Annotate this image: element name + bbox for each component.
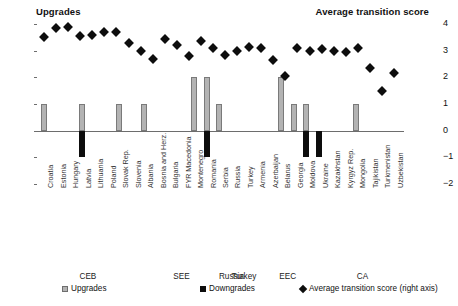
upgrade-bar — [116, 104, 122, 131]
upgrade-bar — [291, 104, 297, 131]
y-tick-label-right-4: 4 — [443, 19, 458, 28]
group-label-ca: CA — [357, 272, 368, 281]
upgrade-bar — [303, 104, 309, 131]
chart-title-right: Average transition score — [316, 6, 429, 17]
upgrade-bar — [353, 104, 359, 131]
x-axis-label: Kazakhstan — [334, 150, 341, 188]
legend-label: Average transition score (right axis) — [309, 284, 438, 293]
downgrade-bar — [79, 131, 85, 158]
x-axis-label: Slovak Rep. — [122, 149, 129, 188]
y-tick-mark-2 — [34, 77, 37, 78]
y-tick-mark-0 — [34, 131, 37, 132]
x-axis-label: Turkmenistan — [384, 145, 391, 188]
x-axis-label: Russia — [234, 166, 241, 188]
y-tick-mark-1 — [34, 104, 37, 105]
x-axis-label: Tajikistan — [372, 158, 379, 188]
x-axis-label: Kyrgyz Rep. — [347, 149, 354, 188]
x-axis-label: Estonia — [60, 164, 67, 188]
zero-axis-line — [34, 131, 404, 132]
legend-item-downgrades: Downgrades — [200, 284, 255, 293]
upgrade-bar — [278, 77, 284, 130]
y-tick-label-right--1: −1 — [443, 152, 458, 161]
group-label-eec: EEC — [279, 272, 296, 281]
x-axis-label: Uzbekistan — [397, 152, 404, 188]
upgrade-bar — [204, 77, 210, 130]
x-axis-label: Armenia — [259, 161, 266, 188]
x-axis-label: Ukraine — [322, 163, 329, 188]
x-axis-label: Bosnia and Herz. — [160, 133, 167, 188]
x-axis-label: Azerbaijan — [272, 154, 279, 188]
x-axis-label: Poland — [110, 166, 117, 188]
chart-title-left: Upgrades — [36, 6, 81, 17]
y-tick-mark--2 — [34, 184, 37, 185]
legend-item-average: Average transition score (right axis) — [300, 284, 438, 293]
downgrade-bar — [316, 131, 322, 158]
x-axis-label: Turkey — [247, 166, 254, 188]
x-axis-label: Albania — [147, 164, 154, 188]
legend-label: Upgrades — [71, 284, 107, 293]
x-axis-label: Bulgaria — [172, 162, 179, 188]
upgrade-bar — [216, 104, 222, 131]
legend-item-upgrades: Upgrades — [62, 284, 107, 293]
x-axis-label: Hungary — [72, 161, 79, 188]
x-axis-label: Lithuania — [97, 159, 104, 188]
square-black-swatch — [200, 286, 206, 292]
y-tick-label-right-2: 2 — [443, 72, 458, 81]
group-label-see: SEE — [173, 272, 189, 281]
x-axis-label: Croatia — [47, 165, 54, 188]
upgrade-bar — [191, 77, 197, 130]
upgrade-bar — [41, 104, 47, 131]
x-axis-label: FYR Macedonia — [185, 136, 192, 188]
x-axis-label: Slovenia — [135, 160, 142, 188]
chart-legend: UpgradesDowngradesAverage transition sco… — [0, 284, 437, 298]
square-gray-swatch — [62, 286, 68, 292]
x-axis-label: Latvia — [85, 169, 92, 188]
x-axis-label: Belarus — [284, 164, 291, 188]
diamond-black-swatch — [299, 284, 307, 292]
y-tick-mark--1 — [34, 157, 37, 158]
x-axis-label: Georgia — [297, 162, 304, 188]
x-axis-label: Mongolia — [359, 159, 366, 188]
y-tick-label-right--2: −2 — [443, 179, 458, 188]
x-axis-label: Moldova — [309, 161, 316, 188]
legend-label: Downgrades — [209, 284, 255, 293]
x-axis-label: Montenegro — [197, 150, 204, 188]
y-tick-mark-4 — [34, 24, 37, 25]
y-tick-label-right-1: 1 — [443, 99, 458, 108]
upgrade-bar — [79, 104, 85, 131]
x-axis-label: Romania — [210, 159, 217, 188]
group-label-turkey: Turkey — [232, 272, 257, 281]
x-axis-label: Serbia — [222, 167, 229, 188]
y-tick-label-right-3: 3 — [443, 46, 458, 55]
downgrade-bar — [303, 131, 309, 158]
group-label-ceb: CEB — [80, 272, 97, 281]
y-tick-mark-3 — [34, 51, 37, 52]
y-tick-label-right-0: 0 — [443, 126, 458, 135]
upgrade-bar — [141, 104, 147, 131]
